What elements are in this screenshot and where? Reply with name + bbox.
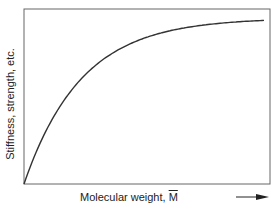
plot-area [0,0,277,212]
right-arrow-icon [236,193,270,201]
molecular-weight-symbol: M [169,191,178,203]
saturation-curve [24,20,264,184]
plot-frame [24,9,270,184]
x-axis-label: Molecular weight, M [80,191,178,203]
y-axis-label: Stiffness, strength, etc. [4,24,18,184]
x-axis-label-text: Molecular weight, [80,191,169,203]
